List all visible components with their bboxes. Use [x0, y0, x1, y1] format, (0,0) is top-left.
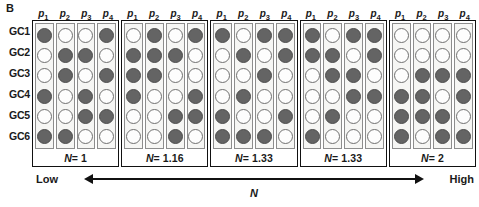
circle-column-p2 [56, 23, 75, 149]
circle-column-p4 [276, 23, 295, 149]
n-value-label: N = 1.16 [122, 150, 207, 166]
n-value-label: N = 1 [33, 150, 118, 166]
column-header-p1: p1 [301, 7, 322, 20]
filled-circle [305, 129, 320, 144]
empty-circle [58, 89, 73, 104]
row-label-gc4: GC4 [2, 83, 32, 104]
empty-circle [346, 129, 361, 144]
circle-columns [390, 21, 475, 150]
empty-circle [99, 89, 114, 104]
filled-circle [168, 48, 183, 63]
filled-circle [188, 109, 203, 124]
empty-circle [257, 48, 272, 63]
column-header-p3: p3 [433, 7, 454, 20]
empty-circle [168, 28, 183, 43]
circle-column-p2 [145, 23, 164, 149]
row-label-gc1: GC1 [2, 20, 32, 41]
filled-circle [126, 48, 141, 63]
empty-circle [188, 68, 203, 83]
filled-circle [99, 28, 114, 43]
filled-circle [367, 89, 382, 104]
empty-circle [278, 68, 293, 83]
filled-circle [435, 68, 450, 83]
filled-circle [305, 28, 320, 43]
empty-circle [415, 48, 430, 63]
filled-circle [415, 89, 430, 104]
circle-column-p3 [166, 23, 185, 149]
empty-circle [215, 89, 230, 104]
empty-circle [188, 129, 203, 144]
empty-circle [278, 89, 293, 104]
column-header-p2: p2 [411, 7, 432, 20]
n-value-label: N = 1.33 [301, 150, 386, 166]
filled-circle [346, 28, 361, 43]
axis-title: N [32, 187, 476, 199]
filled-circle [37, 129, 52, 144]
empty-circle [305, 89, 320, 104]
column-header-p1: p1 [390, 7, 411, 20]
filled-circle [99, 109, 114, 124]
filled-circle [435, 129, 450, 144]
filled-circle [188, 89, 203, 104]
axis-low-label: Low [36, 170, 58, 188]
empty-circle [325, 89, 340, 104]
column-header-row: p1p2p3p4 [121, 7, 208, 20]
column-header-p3: p3 [344, 7, 365, 20]
filled-circle [456, 129, 471, 144]
empty-circle [126, 28, 141, 43]
filled-circle [78, 48, 93, 63]
empty-circle [126, 129, 141, 144]
empty-circle [236, 28, 251, 43]
empty-circle [58, 28, 73, 43]
n-axis: Low High N [32, 170, 476, 204]
empty-circle [168, 89, 183, 104]
empty-circle [215, 48, 230, 63]
filled-circle [99, 68, 114, 83]
circle-column-p4 [187, 23, 206, 149]
empty-circle [147, 109, 162, 124]
row-label-column: GC1GC2GC3GC4GC5GC6 [2, 20, 32, 146]
filled-circle [37, 89, 52, 104]
column-header-p1: p1 [122, 7, 143, 20]
empty-circle [394, 48, 409, 63]
column-header-p1: p1 [211, 7, 232, 20]
filled-circle [435, 109, 450, 124]
empty-circle [126, 109, 141, 124]
empty-circle [435, 89, 450, 104]
empty-circle [215, 68, 230, 83]
panel-box-3: N = 1.33 [210, 20, 297, 167]
filled-circle [168, 109, 183, 124]
circle-columns [122, 21, 207, 150]
empty-circle [37, 48, 52, 63]
filled-circle [367, 28, 382, 43]
filled-circle [257, 129, 272, 144]
figure-panel-b: B GC1GC2GC3GC4GC5GC6 p1p2p3p4N = 1p1p2p3… [0, 0, 479, 207]
column-header-row: p1p2p3p4 [389, 7, 476, 20]
panel-box-2: N = 1.16 [121, 20, 208, 167]
empty-circle [305, 68, 320, 83]
circle-column-p1 [35, 23, 54, 149]
filled-circle [367, 48, 382, 63]
double-arrow-icon [84, 178, 424, 180]
circle-column-p3 [433, 23, 452, 149]
empty-circle [37, 68, 52, 83]
filled-circle [126, 89, 141, 104]
panel-letter: B [6, 2, 14, 14]
column-header-row: p1p2p3p4 [300, 7, 387, 20]
column-header-p2: p2 [144, 7, 165, 20]
filled-circle [325, 68, 340, 83]
circle-column-p4 [454, 23, 473, 149]
empty-circle [147, 129, 162, 144]
column-header-p3: p3 [76, 7, 97, 20]
empty-circle [78, 68, 93, 83]
column-header-p4: p4 [454, 7, 475, 20]
circle-column-p3 [255, 23, 274, 149]
column-header-p2: p2 [233, 7, 254, 20]
filled-circle [456, 68, 471, 83]
panel-box-4: N = 1.33 [300, 20, 387, 167]
filled-circle [147, 68, 162, 83]
column-header-p4: p4 [187, 7, 208, 20]
empty-circle [168, 68, 183, 83]
empty-circle [188, 48, 203, 63]
circle-column-p4 [97, 23, 116, 149]
